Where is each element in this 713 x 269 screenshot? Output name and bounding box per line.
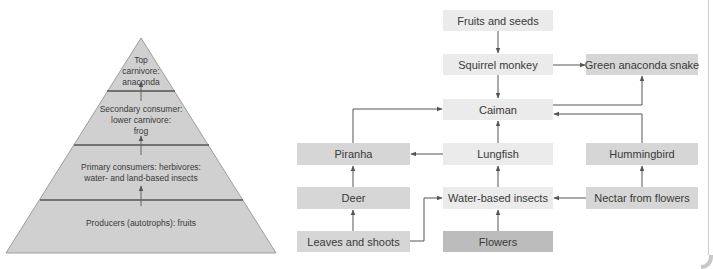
node-nectar-from-flowers: Nectar from flowers (586, 187, 698, 209)
pyramid-level-secondary: Secondary consumer: lower carnivore: fro… (76, 104, 206, 137)
level-label-line: Producers (autotrophs): fruits (61, 218, 221, 229)
edge-piranha-caiman (353, 109, 442, 143)
level-label-line: water- and land-based insects (61, 173, 221, 184)
node-squirrel-monkey: Squirrel monkey (443, 54, 553, 75)
level-label-line: frog (76, 126, 206, 137)
node-deer: Deer (297, 187, 410, 209)
node-piranha: Piranha (297, 143, 410, 165)
edge-hummingbird-caiman (554, 114, 642, 143)
level-label-line: Secondary consumer: (76, 104, 206, 115)
level-label-line: Top (106, 55, 176, 66)
pyramid-level-top: Top carnivore: anaconda (106, 55, 176, 88)
node-lungfish: Lungfish (443, 143, 553, 165)
page-edge-divider (708, 0, 709, 255)
level-label-line: Primary consumers: herbivores: (61, 162, 221, 173)
edge-leaves-insects (410, 198, 442, 241)
edge-caiman-anaconda (553, 76, 642, 105)
level-label-line: lower carnivore: (76, 115, 206, 126)
node-leaves-and-shoots: Leaves and shoots (297, 231, 410, 252)
node-flowers: Flowers (443, 231, 553, 252)
node-green-anaconda-snake: Green anaconda snake (586, 54, 698, 75)
pyramid-level-primary: Primary consumers: herbivores: water- an… (61, 162, 221, 184)
node-caiman: Caiman (443, 99, 553, 120)
level-label-line: carnivore: (106, 66, 176, 77)
level-label-line: anaconda (106, 77, 176, 88)
pyramid-level-producers: Producers (autotrophs): fruits (61, 218, 221, 229)
node-hummingbird: Hummingbird (586, 143, 698, 165)
node-fruits-and-seeds: Fruits and seeds (443, 10, 553, 31)
node-water-based-insects: Water-based insects (443, 187, 553, 209)
